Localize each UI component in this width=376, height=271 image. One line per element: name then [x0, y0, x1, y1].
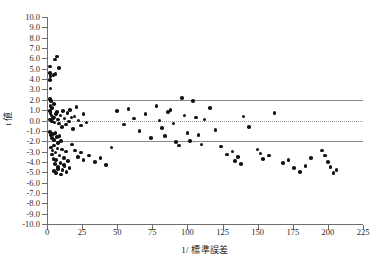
data-point: [55, 55, 59, 59]
data-point: [57, 66, 61, 70]
y-tick-label: 7.0: [0, 44, 40, 53]
y-tick-label: 3.0: [0, 85, 40, 94]
x-tick-label: 175: [273, 228, 313, 237]
data-point: [183, 114, 187, 118]
data-point: [66, 111, 70, 115]
data-point: [52, 144, 56, 148]
data-point: [70, 143, 74, 147]
data-point: [180, 96, 184, 100]
data-point: [53, 58, 57, 62]
data-point: [87, 154, 91, 158]
x-tick-label: 50: [97, 228, 137, 237]
y-tick-label: 4.0: [0, 75, 40, 84]
data-point: [298, 170, 302, 174]
data-point: [60, 125, 64, 129]
data-point: [144, 112, 148, 116]
data-point: [77, 119, 81, 123]
data-point: [239, 162, 243, 166]
data-point: [82, 158, 86, 162]
data-point: [177, 144, 181, 148]
data-point: [64, 150, 68, 154]
data-point: [214, 128, 218, 132]
x-tick-label: 125: [203, 228, 243, 237]
data-point: [219, 145, 223, 149]
data-point: [335, 168, 339, 172]
x-tick-label: 25: [62, 228, 102, 237]
data-point: [56, 118, 60, 122]
data-point: [160, 126, 164, 130]
data-point: [75, 105, 79, 109]
data-point: [188, 139, 192, 143]
data-point: [73, 115, 77, 119]
data-point: [158, 119, 162, 123]
data-point: [48, 78, 52, 82]
x-axis-title: 1/ 標準誤差: [47, 243, 363, 256]
data-point: [292, 166, 296, 170]
data-point: [68, 166, 72, 170]
data-point: [52, 102, 56, 106]
data-point: [231, 150, 235, 154]
data-point: [115, 109, 119, 113]
y-tick-label: 6.0: [0, 54, 40, 63]
y-tick-label: -6.0: [0, 179, 40, 188]
data-point: [236, 155, 240, 159]
data-point: [309, 156, 313, 160]
data-point: [208, 106, 212, 110]
y-tick-label: 5.0: [0, 65, 40, 74]
upper-significance-line: [47, 100, 363, 101]
data-point: [52, 73, 56, 77]
data-point: [62, 163, 66, 167]
data-point: [67, 120, 71, 124]
data-point: [287, 158, 291, 162]
data-point: [200, 143, 204, 147]
y-tick-label: 10.0: [0, 13, 40, 22]
data-point: [267, 154, 271, 158]
data-point: [56, 167, 60, 171]
data-point: [59, 114, 63, 118]
data-point: [242, 115, 246, 119]
data-point: [59, 173, 63, 177]
x-tick-label: 225: [343, 228, 376, 237]
data-point: [62, 156, 66, 160]
data-point: [52, 138, 56, 142]
data-point: [79, 151, 83, 155]
data-point: [163, 134, 167, 138]
y-tick-label: -4.0: [0, 158, 40, 167]
data-point: [281, 161, 285, 165]
data-point: [320, 149, 324, 153]
data-point: [326, 160, 330, 164]
data-point: [132, 117, 136, 121]
data-point: [233, 159, 237, 163]
data-point: [58, 154, 62, 158]
data-point: [172, 122, 176, 126]
data-point: [85, 121, 89, 125]
data-point: [323, 154, 327, 158]
data-point: [54, 158, 58, 162]
data-point: [65, 170, 69, 174]
x-axis-line: [47, 224, 363, 225]
y-tick-label: -7.0: [0, 189, 40, 198]
data-point: [60, 148, 64, 152]
data-point: [54, 131, 58, 135]
lower-significance-line: [47, 141, 363, 142]
data-point: [191, 99, 195, 103]
data-point: [48, 65, 52, 69]
data-point: [66, 159, 70, 163]
data-point: [82, 112, 86, 116]
data-point: [256, 148, 260, 152]
data-point: [329, 165, 333, 169]
y-tick-label: 8.0: [0, 34, 40, 43]
y-tick-label: -5.0: [0, 168, 40, 177]
data-point: [79, 124, 83, 128]
y-tick-label: -3.0: [0, 148, 40, 157]
data-point: [110, 146, 114, 150]
x-tick-label: 0: [27, 228, 67, 237]
y-tick-label: -9.0: [0, 210, 40, 219]
data-point: [50, 153, 54, 157]
data-point: [73, 149, 77, 153]
data-point: [49, 87, 53, 91]
data-point: [51, 117, 55, 121]
x-tick-label: 100: [167, 228, 207, 237]
data-point: [273, 111, 277, 115]
y-tick-label: 9.0: [0, 23, 40, 32]
